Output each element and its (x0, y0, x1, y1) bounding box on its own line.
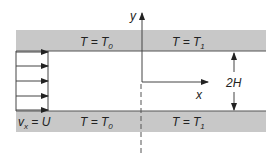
bottom-left-temp-label: T = T0 (80, 115, 113, 131)
y-axis-label: y (129, 9, 137, 23)
top-wall (16, 30, 266, 51)
top-left-temp-label: T = T0 (80, 35, 113, 51)
bottom-right-temp-label: T = T1 (172, 115, 205, 131)
top-right-temp-label: T = T1 (172, 35, 205, 51)
x-axis-label: x (195, 88, 203, 102)
inlet-velocity-label: vx = U (18, 115, 51, 131)
channel-flow-diagram: y x 2H T = T0 T = T1 T = T0 T = T1 vx = … (0, 0, 279, 165)
gap-label: 2H (225, 76, 242, 90)
velocity-profile (16, 51, 48, 111)
